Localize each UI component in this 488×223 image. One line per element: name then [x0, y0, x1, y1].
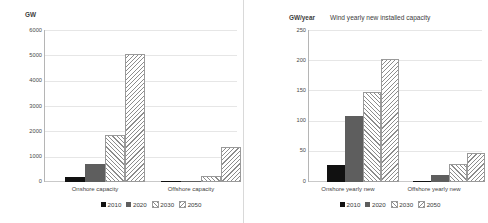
bar-left-offshore-2050 — [221, 147, 241, 183]
left-plot-area — [45, 30, 237, 182]
legend-item-2030: 2030 — [391, 201, 413, 208]
legend-swatch-2050-icon — [179, 201, 186, 208]
right-axis-unit-label: GW/year — [289, 14, 315, 21]
bar-right-onshore-2030 — [363, 92, 381, 182]
legend-item-2020: 2020 — [365, 201, 385, 208]
bar-left-onshore-2010 — [65, 177, 85, 182]
right-ytick: 50 — [282, 147, 306, 153]
left-legend: 2010 2020 2030 2050 — [101, 201, 201, 208]
legend-item-2030: 2030 — [152, 201, 174, 208]
legend-swatch-2010-icon — [101, 202, 106, 207]
bar-left-onshore-2030 — [105, 135, 125, 182]
bar-left-onshore-2050 — [125, 54, 145, 182]
legend-label-2050: 2050 — [427, 201, 441, 208]
legend-item-2010: 2010 — [101, 201, 121, 208]
left-ytick: 0 — [16, 178, 42, 184]
bar-left-onshore-2020 — [85, 164, 105, 183]
left-y-axis — [44, 30, 45, 182]
bar-right-offshore-2020 — [431, 175, 449, 182]
legend-item-2050: 2050 — [179, 201, 201, 208]
bar-right-onshore-2050 — [381, 59, 399, 182]
right-category-label-offshore: Offshore yearly new — [398, 186, 470, 192]
right-legend: 2010 2020 2030 2050 — [340, 201, 440, 208]
right-ytick: 150 — [282, 87, 306, 93]
chart-panel-yearly-new: GW/year Wind yearly new installed capaci… — [244, 0, 488, 223]
legend-item-2050: 2050 — [418, 201, 440, 208]
bar-right-onshore-2020 — [345, 116, 363, 182]
left-category-label-offshore: Offshore capacity — [161, 186, 221, 192]
right-ytick: 100 — [282, 117, 306, 123]
left-ytick: 5000 — [16, 52, 42, 58]
legend-label-2030: 2030 — [160, 201, 174, 208]
legend-item-2010: 2010 — [340, 201, 360, 208]
bar-right-offshore-2010 — [413, 181, 431, 182]
legend-swatch-2030-icon — [152, 201, 159, 208]
chart-panel-capacity: GW 6000 5000 4000 3000 2 — [0, 0, 244, 223]
legend-item-2020: 2020 — [126, 201, 146, 208]
bar-right-onshore-2010 — [327, 165, 345, 182]
figure-canvas: GW 6000 5000 4000 3000 2 — [0, 0, 488, 223]
legend-swatch-2020-icon — [126, 202, 131, 207]
left-ytick: 2000 — [16, 128, 42, 134]
right-plot-area — [309, 30, 482, 182]
bar-right-offshore-2030 — [449, 164, 467, 182]
left-ytick: 1000 — [16, 153, 42, 159]
bar-left-offshore-2020 — [181, 181, 201, 182]
legend-label-2030: 2030 — [399, 201, 413, 208]
bar-right-offshore-2050 — [467, 153, 485, 182]
legend-swatch-2030-icon — [391, 201, 398, 208]
legend-label-2020: 2020 — [133, 201, 147, 208]
legend-swatch-2050-icon — [418, 201, 425, 208]
gridline — [45, 30, 237, 31]
bar-left-offshore-2030 — [201, 176, 221, 182]
legend-label-2010: 2010 — [108, 201, 122, 208]
left-axis-unit-label: GW — [25, 11, 36, 18]
left-category-label-onshore: Onshore capacity — [65, 186, 125, 192]
right-category-label-onshore: Onshore yearly new — [312, 186, 384, 192]
legend-swatch-2010-icon — [340, 202, 345, 207]
right-ytick: 250 — [282, 27, 306, 33]
gridline — [309, 30, 482, 31]
right-y-axis — [308, 30, 309, 182]
left-ytick: 4000 — [16, 77, 42, 83]
right-chart-title: Wind yearly new installed capacity — [330, 14, 430, 21]
legend-swatch-2020-icon — [365, 202, 370, 207]
left-ytick: 6000 — [16, 27, 42, 33]
right-ytick: 0 — [282, 178, 306, 184]
bar-left-offshore-2010 — [161, 181, 181, 182]
right-ytick: 200 — [282, 57, 306, 63]
left-ytick: 3000 — [16, 103, 42, 109]
legend-label-2050: 2050 — [188, 201, 202, 208]
legend-label-2010: 2010 — [347, 201, 361, 208]
legend-label-2020: 2020 — [372, 201, 386, 208]
